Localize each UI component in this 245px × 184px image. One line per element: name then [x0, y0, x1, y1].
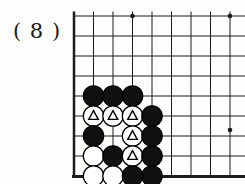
star-point [228, 128, 233, 133]
white-stone [103, 166, 123, 184]
white-stone [122, 146, 142, 166]
white-stone [122, 126, 142, 146]
white-stone [122, 106, 142, 126]
black-stone [103, 146, 123, 166]
black-stone [103, 86, 123, 106]
black-stone [83, 86, 103, 106]
black-stone [83, 126, 103, 146]
black-stone [142, 146, 162, 166]
star-point [130, 14, 135, 19]
page: ( 8 ) [0, 0, 245, 184]
black-stone [122, 166, 142, 184]
black-stone [142, 166, 162, 184]
white-stone [103, 106, 123, 126]
black-stone [122, 86, 142, 106]
black-stone [142, 106, 162, 126]
white-stone [83, 106, 103, 126]
white-stone [83, 166, 103, 184]
star-point [228, 14, 233, 19]
black-stone [142, 126, 162, 146]
go-board-diagram [0, 0, 245, 184]
white-stone [83, 146, 103, 166]
